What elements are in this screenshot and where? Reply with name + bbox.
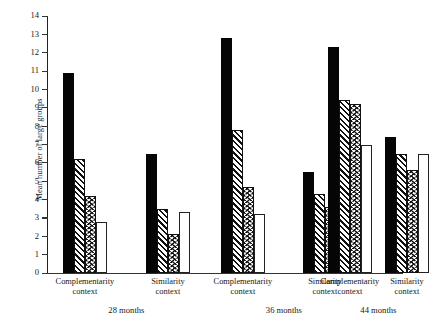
bar [396, 154, 407, 273]
bar [385, 137, 396, 273]
bar-cluster [63, 16, 107, 273]
y-tick-label-9: 9 [22, 103, 39, 112]
bar [303, 172, 314, 273]
y-tick-label-1: 1 [22, 250, 39, 259]
y-tick-label-2: 2 [22, 232, 39, 241]
bar [361, 145, 372, 274]
bar-cluster [146, 16, 190, 273]
x-axis-line [47, 273, 403, 274]
bar [74, 159, 85, 273]
bar [339, 100, 350, 273]
bar [179, 212, 190, 273]
bar [63, 73, 74, 273]
category-label: Complementaritycontext [45, 277, 125, 297]
y-tick-label-5: 5 [22, 177, 39, 186]
category-label-line: context [128, 287, 208, 297]
y-tick-label-3: 3 [22, 213, 39, 222]
category-label-line: Complementarity [45, 277, 125, 287]
bar [254, 214, 265, 273]
y-tick-label-4: 4 [22, 195, 39, 204]
category-label: Similaritycontext [367, 277, 433, 297]
bar-cluster [328, 16, 372, 273]
bar-cluster [221, 16, 265, 273]
y-tick-label-14: 14 [22, 11, 39, 20]
bar-cluster [385, 16, 429, 273]
bar [85, 196, 96, 273]
group-label-28-months: 28 months [86, 305, 166, 315]
category-label-line: context [367, 287, 433, 297]
y-tick-label-6: 6 [22, 158, 39, 167]
category-label-line: Similarity [128, 277, 208, 287]
bar [350, 104, 361, 273]
group-label-36-months: 36 months [244, 305, 324, 315]
bar [221, 38, 232, 273]
bar [157, 209, 168, 273]
bar [314, 194, 325, 273]
plot-area [47, 16, 403, 273]
bar [146, 154, 157, 273]
category-label-line: Similarity [367, 277, 433, 287]
y-tick-label-7: 7 [22, 140, 39, 149]
bar [328, 47, 339, 273]
y-tick-label-0: 0 [22, 268, 39, 277]
bar [243, 187, 254, 273]
bar [96, 222, 107, 273]
y-tick-label-8: 8 [22, 122, 39, 131]
bar [168, 234, 179, 273]
category-label-line: context [45, 287, 125, 297]
bar [232, 130, 243, 273]
y-tick-label-13: 13 [22, 30, 39, 39]
bar [407, 170, 418, 273]
bar [418, 154, 429, 273]
category-label: Similaritycontext [128, 277, 208, 297]
category-label: Complementaritycontext [203, 277, 283, 297]
y-tick-label-11: 11 [22, 66, 39, 75]
category-label-line: context [203, 287, 283, 297]
category-label-line: Complementarity [203, 277, 283, 287]
y-tick-label-10: 10 [22, 85, 39, 94]
group-label-44-months: 44 months [338, 305, 418, 315]
y-tick-label-12: 12 [22, 48, 39, 57]
